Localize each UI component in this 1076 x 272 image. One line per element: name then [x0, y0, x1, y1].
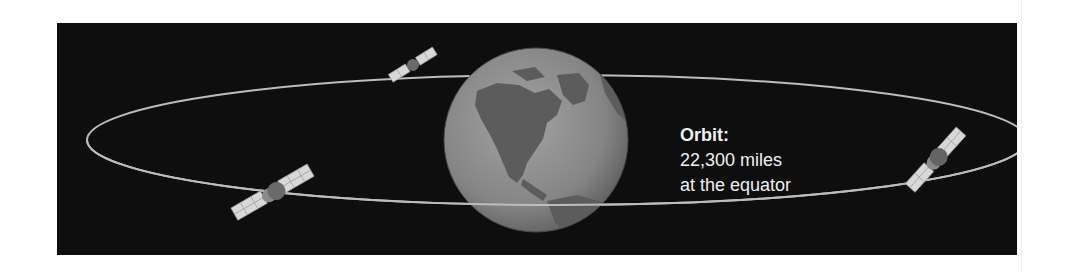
earth-globe: [444, 48, 632, 237]
satellite-icon: [230, 163, 315, 223]
caption-location: at the equator: [680, 173, 791, 198]
caption-title: Orbit:: [680, 123, 791, 148]
caption-distance: 22,300 miles: [680, 148, 791, 173]
diagram-panel: Orbit: 22,300 miles at the equator: [57, 23, 1017, 255]
orbit-diagram: [57, 23, 1017, 255]
orbit-caption: Orbit: 22,300 miles at the equator: [680, 123, 791, 198]
satellite-icon: [904, 126, 968, 195]
page-divider: [1021, 0, 1022, 272]
